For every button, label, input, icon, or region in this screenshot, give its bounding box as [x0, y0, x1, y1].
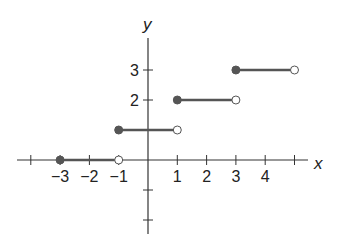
- y-axis-label: y: [142, 15, 153, 34]
- step-segment: [173, 96, 240, 104]
- ticks: [31, 70, 295, 220]
- x-axis-label: x: [313, 154, 323, 173]
- x-tick-label: −2: [80, 168, 98, 185]
- y-tick-label: 3: [130, 62, 139, 79]
- x-tick-label: 2: [202, 168, 211, 185]
- x-tick-label: 4: [261, 168, 270, 185]
- step-function-chart: −3−2−1123423 x y: [0, 0, 341, 252]
- x-tick-label: 3: [231, 168, 240, 185]
- closed-dot: [232, 66, 240, 74]
- x-tick-label: −3: [51, 168, 69, 185]
- open-dot: [232, 96, 240, 104]
- step-segment: [232, 66, 299, 74]
- step-segments: [56, 66, 298, 164]
- open-dot: [173, 126, 181, 134]
- closed-dot: [56, 156, 64, 164]
- x-tick-label: 1: [173, 168, 182, 185]
- open-dot: [291, 66, 299, 74]
- tick-labels: −3−2−1123423: [51, 62, 270, 185]
- x-tick-label: −1: [110, 168, 128, 185]
- y-tick-label: 2: [130, 92, 139, 109]
- open-dot: [115, 156, 123, 164]
- closed-dot: [173, 96, 181, 104]
- axes: [17, 38, 308, 234]
- closed-dot: [115, 126, 123, 134]
